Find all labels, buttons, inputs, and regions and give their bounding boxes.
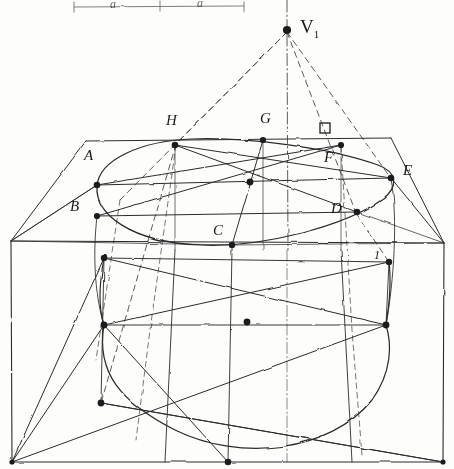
- point-label-F: F: [324, 150, 333, 165]
- point-label-E: E: [403, 163, 412, 178]
- construction-rays: [11, 185, 444, 245]
- point-label-C: C: [213, 223, 223, 238]
- geometry-drawing: [0, 0, 454, 469]
- top-tangent: [86, 138, 391, 141]
- point-label-B: B: [70, 199, 79, 214]
- scale-label-right: a: [197, 0, 203, 9]
- point-label-D: D: [331, 201, 342, 216]
- scale-bar: [74, 1, 244, 12]
- point-label-G: G: [260, 111, 271, 126]
- lower-frame: [11, 241, 444, 462]
- lower-marker-label: 1: [374, 249, 380, 261]
- point-label-A: A: [84, 148, 93, 163]
- scale-label-left: a: [110, 0, 116, 10]
- central-axis: [287, 0, 288, 250]
- side-curves: [95, 178, 395, 325]
- diagram-canvas: V1 A B C D E F G H 1 a a: [0, 0, 454, 469]
- lower-diagonals: [12, 258, 443, 462]
- lower-verticals: [101, 250, 389, 462]
- vanishing-point-label: V1: [300, 17, 319, 40]
- upper-ellipse: [97, 139, 394, 246]
- outer-silhouette: [11, 138, 444, 243]
- point-label-H: H: [166, 113, 177, 128]
